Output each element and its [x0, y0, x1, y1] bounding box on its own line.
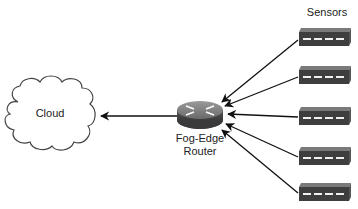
cloud-label: Cloud	[30, 107, 70, 120]
sensor-3-icon	[299, 107, 351, 125]
sensor-5-icon	[299, 183, 351, 201]
router-label-line1: Fog-Edge	[170, 132, 230, 145]
sensor-4-icon	[299, 147, 351, 165]
router-label-line2: Router	[170, 145, 230, 158]
diagram-canvas	[0, 0, 358, 209]
edge-sensor-3-to-router	[228, 114, 298, 117]
edge-sensor-2-to-router	[225, 77, 298, 106]
router-icon	[177, 101, 223, 129]
edge-sensor-4-to-router	[226, 124, 298, 157]
router-label: Fog-Edge Router	[170, 132, 230, 158]
sensors-label: Sensors	[300, 6, 354, 19]
sensor-2-icon	[299, 66, 351, 84]
sensor-1-icon	[299, 28, 351, 46]
